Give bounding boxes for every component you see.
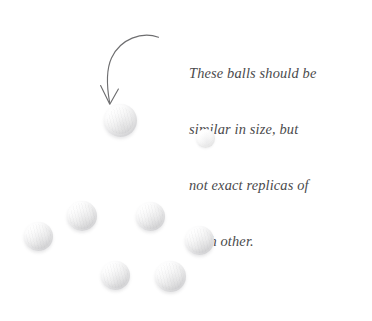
ball-cluster-left <box>24 222 53 251</box>
callout-note-line-1: These balls should be <box>189 64 359 83</box>
ball-cluster-lower-l <box>101 261 130 290</box>
ball-top-large <box>104 104 137 137</box>
callout-note-line-4: each other. <box>189 232 359 251</box>
ball-cluster-upper-r <box>136 202 165 231</box>
ball-top-small <box>196 129 215 148</box>
ball-cluster-lower-r <box>155 261 186 292</box>
arrow-curve-path <box>107 35 158 102</box>
curved-pointer-arrow <box>88 22 178 114</box>
ball-cluster-upper-l <box>67 201 97 231</box>
callout-note: These balls should be similar in size, b… <box>189 27 359 287</box>
illustration-canvas: These balls should be similar in size, b… <box>0 0 372 321</box>
callout-note-line-3: not exact replicas of <box>189 176 359 195</box>
ball-cluster-right <box>185 226 214 255</box>
